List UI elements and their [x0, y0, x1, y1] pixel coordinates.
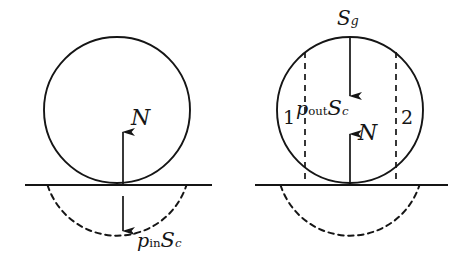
left-bubble-circle [44, 37, 190, 183]
right-normal-force-label: N [358, 120, 377, 145]
region-2-label: 2 [401, 106, 413, 128]
diagram-canvas [0, 0, 471, 264]
right-external-pressure-label: poutSc [296, 96, 349, 120]
right-surface-tension-label: Sg [337, 6, 359, 30]
physics-force-diagram-figure: N pinSc Sg poutSc N 1 2 [0, 0, 471, 264]
region-1-label: 1 [283, 106, 295, 128]
left-normal-force-label: N [131, 105, 150, 130]
right-panel-group [255, 37, 448, 236]
left-panel-group [25, 37, 212, 236]
left-internal-pressure-label: pinSc [137, 228, 182, 252]
